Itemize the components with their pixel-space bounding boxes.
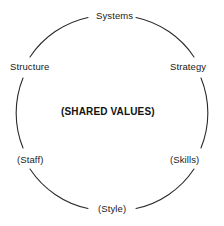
node-label-skills: (Skills) [168, 154, 201, 165]
node-label-strategy: Strategy [168, 61, 208, 72]
node-label-style: (Style) [96, 203, 128, 214]
seven-s-framework-diagram: Systems Strategy (Skills) (Style) (Staff… [0, 0, 224, 226]
node-label-systems: Systems [94, 10, 135, 21]
arc-strategy-to-skills [201, 78, 208, 148]
center-label-shared-values: (SHARED VALUES) [59, 106, 157, 118]
node-label-structure: Structure [8, 61, 51, 72]
arc-staff-to-structure [16, 78, 23, 148]
arc-style-to-staff [30, 169, 88, 209]
arc-skills-to-style [136, 169, 194, 209]
arc-structure-to-systems [30, 18, 88, 58]
arc-systems-to-strategy [136, 18, 194, 58]
node-label-staff: (Staff) [15, 154, 45, 165]
